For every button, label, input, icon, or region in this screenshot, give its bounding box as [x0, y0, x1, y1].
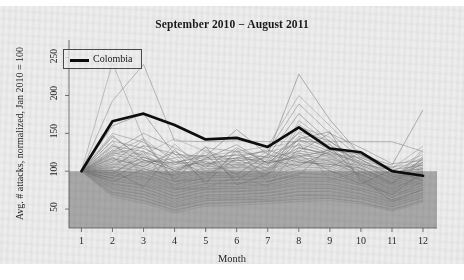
x-tick-label: 1: [69, 235, 93, 246]
x-tick-label: 8: [287, 235, 311, 246]
y-tick-label: 50: [49, 194, 59, 220]
legend-line-swatch: [70, 59, 89, 62]
y-tick-label: 150: [49, 118, 59, 144]
x-tick-label: 5: [194, 235, 218, 246]
plot-area: [0, 6, 464, 264]
x-tick-label: 12: [411, 235, 435, 246]
y-tick-label: 100: [49, 156, 59, 182]
y-tick-label: 200: [49, 80, 59, 106]
y-tick-label: 250: [49, 43, 59, 69]
legend: Colombia: [63, 49, 142, 69]
x-tick-label: 9: [318, 235, 342, 246]
x-tick-label: 3: [132, 235, 156, 246]
x-tick-label: 11: [380, 235, 404, 246]
x-tick-label: 4: [163, 235, 187, 246]
x-tick-label: 7: [256, 235, 280, 246]
x-tick-label: 10: [349, 235, 373, 246]
figure-panel: September 2010 − August 2011 Avg. # atta…: [0, 6, 464, 264]
x-tick-label: 2: [100, 235, 124, 246]
x-tick-label: 6: [225, 235, 249, 246]
legend-label: Colombia: [93, 53, 132, 64]
